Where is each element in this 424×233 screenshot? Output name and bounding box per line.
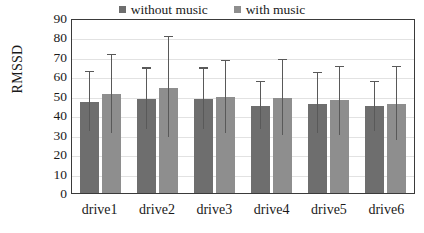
error-bar-cap-upper [278,59,287,60]
bar-groups [72,20,414,193]
x-tick-label: drive1 [71,199,128,223]
bar-item [137,20,156,193]
error-bar [146,69,147,129]
y-axis-title: RMSSD [10,26,28,112]
rmssd-bar-chart: without music with music RMSSD 908070605… [0,0,424,233]
y-tick-label: 0 [38,187,67,201]
error-bar-cap-upper [142,67,151,68]
x-axis-tick-labels: drive1drive2drive3drive4drive5drive6 [71,199,415,223]
error-bar-cap-upper [392,66,401,67]
bar-group [129,20,186,193]
error-bar-cap-upper [313,72,322,73]
legend-item-without-music: without music [119,3,208,17]
x-tick-label: drive2 [128,199,185,223]
error-bar [339,67,340,135]
error-bar-cap-upper [221,60,230,61]
bar-item [273,20,292,193]
legend-label-with-music: with music [246,3,306,17]
legend-label-without-music: without music [131,3,208,17]
y-tick-label: 10 [38,168,67,182]
bar-group [186,20,243,193]
bar-item [216,20,235,193]
error-bar-cap-upper [107,54,116,55]
error-bar-cap-upper [164,36,173,37]
y-tick-label: 80 [38,32,67,46]
error-bar-cap-upper [199,67,208,68]
bar-item [159,20,178,193]
error-bar [111,55,112,133]
error-bar [89,72,90,130]
bar-item [194,20,213,193]
bar-group [357,20,414,193]
y-tick-label: 60 [38,71,67,85]
y-tick-label: 50 [38,90,67,104]
plot-area [71,19,415,194]
bar-item [308,20,327,193]
x-tick-label: drive4 [243,199,300,223]
error-bar-cap-upper [85,71,94,72]
x-tick-label: drive5 [300,199,357,223]
error-bar [203,69,204,129]
y-tick-label: 90 [38,12,67,26]
bar-item [80,20,99,193]
legend-item-with-music: with music [234,3,306,17]
legend-swatch-with-music [234,6,241,13]
y-tick-label: 30 [38,129,67,143]
y-tick-label: 70 [38,51,67,65]
y-tick-label: 40 [38,109,67,123]
error-bar [317,73,318,132]
bar-group [243,20,300,193]
error-bar [282,60,283,135]
error-bar [225,61,226,133]
legend-swatch-without-music [119,6,126,13]
error-bar [168,37,169,136]
x-tick-label: drive3 [186,199,243,223]
y-tick-label: 20 [38,148,67,162]
x-tick-label: drive6 [358,199,415,223]
bar-group [72,20,129,193]
bar-group [300,20,357,193]
bar-item [387,20,406,193]
error-bar [260,82,261,129]
error-bar [396,67,397,140]
error-bar [374,82,375,131]
error-bar-cap-upper [370,81,379,82]
bar-item [365,20,384,193]
error-bar-cap-upper [256,81,265,82]
bar-item [251,20,270,193]
bar-item [330,20,349,193]
error-bar-cap-upper [335,66,344,67]
y-axis-tick-labels: 9080706050403020100 [38,19,67,194]
bar-item [102,20,121,193]
